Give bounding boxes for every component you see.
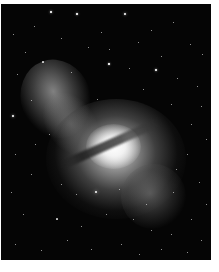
star [139, 254, 140, 255]
star [31, 100, 32, 101]
star [106, 214, 107, 215]
star [129, 68, 130, 69]
star [151, 30, 152, 31]
star [206, 204, 207, 205]
star [199, 182, 200, 183]
star [151, 230, 152, 231]
star [121, 244, 122, 245]
star [11, 192, 12, 193]
star [31, 174, 32, 175]
star [101, 32, 102, 33]
star [67, 240, 68, 241]
star [17, 74, 18, 75]
star [191, 219, 192, 220]
star [187, 252, 188, 253]
star [146, 204, 147, 205]
star [138, 42, 139, 43]
star [35, 144, 36, 145]
star [34, 26, 35, 27]
star [95, 191, 97, 193]
northeast-lobe [9, 49, 102, 148]
star [61, 38, 62, 39]
star [15, 154, 16, 155]
star [41, 250, 42, 251]
star [171, 104, 172, 105]
star [187, 154, 188, 155]
star [76, 194, 77, 195]
star [49, 134, 50, 135]
star [161, 56, 162, 57]
star [50, 11, 52, 13]
galaxy-photo [1, 4, 211, 260]
star [109, 49, 110, 50]
star [161, 249, 162, 250]
southwest-lobe [121, 164, 186, 229]
star [191, 124, 192, 125]
star [173, 192, 174, 193]
star [13, 34, 14, 35]
star [71, 72, 72, 73]
star [91, 249, 92, 250]
star [119, 189, 120, 190]
star [42, 61, 43, 62]
star [88, 47, 89, 48]
star [76, 13, 78, 15]
star [201, 106, 202, 107]
star [97, 99, 98, 100]
star [133, 219, 134, 220]
star [197, 86, 198, 87]
star [23, 214, 24, 215]
star [61, 184, 62, 185]
dust-lane [59, 117, 163, 170]
star [12, 115, 14, 117]
star [56, 218, 57, 219]
star [15, 244, 16, 245]
star [143, 89, 144, 90]
star [171, 234, 172, 235]
star [108, 63, 109, 64]
star [176, 169, 177, 170]
star [25, 52, 26, 53]
star [124, 13, 126, 15]
star [190, 44, 191, 45]
lobe-arm [30, 81, 111, 167]
star [177, 78, 178, 79]
star [206, 139, 207, 140]
star [81, 226, 82, 227]
star [201, 240, 202, 241]
star [202, 54, 203, 55]
star [173, 22, 174, 23]
star [155, 69, 157, 71]
